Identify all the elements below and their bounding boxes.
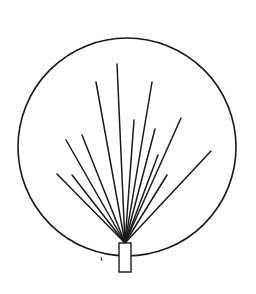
diagram-canvas xyxy=(0,0,256,294)
ray-line xyxy=(72,175,125,243)
ray-line xyxy=(82,135,125,243)
base-rectangle xyxy=(119,243,131,272)
fan-diagram xyxy=(0,0,256,294)
ray-line xyxy=(117,64,125,243)
tick-mark xyxy=(101,257,102,261)
ray-group xyxy=(57,64,211,243)
